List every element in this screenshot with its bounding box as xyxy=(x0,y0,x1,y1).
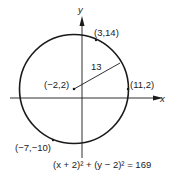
point-label-3-14: (3,14) xyxy=(94,28,119,38)
radius-label: 13 xyxy=(91,62,102,72)
center-point xyxy=(73,88,76,91)
x-axis-label: x xyxy=(160,94,165,104)
point-label-neg7-neg10: (−7,−10) xyxy=(15,143,51,153)
point-11-2 xyxy=(127,88,129,90)
y-axis-arrow-icon xyxy=(80,16,85,26)
circle-equation: (x + 2)² + (y − 2)² = 169 xyxy=(53,160,151,170)
center-label: (−2,2) xyxy=(44,80,69,90)
y-axis-label: y xyxy=(78,5,83,15)
point-3-14 xyxy=(95,39,97,41)
point-neg7-neg10 xyxy=(52,139,54,141)
point-label-11-2: (11,2) xyxy=(130,80,154,90)
